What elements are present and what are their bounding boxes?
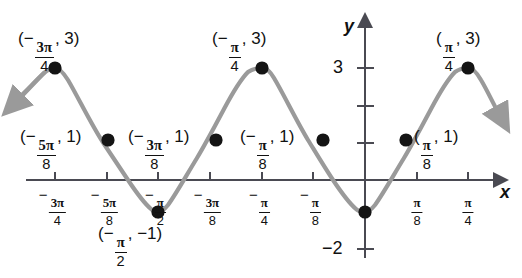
point-min-zero: [358, 205, 371, 218]
ytick-label-minus2: −2: [322, 239, 343, 257]
ytick-label-3: 3: [333, 58, 343, 76]
point-mid-5pi8: [101, 133, 114, 146]
x-axis-label: x: [500, 183, 510, 201]
label-max-left: (−3π4, 3): [18, 30, 79, 74]
xtick-label-3: −3π8: [194, 186, 222, 227]
curve-left-arrow: [19, 73, 44, 99]
y-axis-label: y: [344, 17, 354, 35]
xtick-label-0: −3π4: [39, 186, 67, 227]
xtick-label-7: π4: [461, 186, 474, 227]
xtick-label-1: −5π8: [91, 186, 119, 227]
point-mid-pi8neg: [316, 133, 329, 146]
label-mid-5pi8: (−5π8, 1): [20, 128, 81, 172]
label-min-pi2: (−π2, −1): [98, 225, 162, 269]
point-mid-3pi8: [209, 133, 222, 146]
xtick-label-2: −π2: [145, 186, 167, 227]
label-mid-3pi8: (−3π8, 1): [128, 128, 189, 172]
point-mid-pi8pos: [399, 133, 412, 146]
xtick-label-6: π8: [410, 186, 423, 227]
xtick-label-5: −π8: [300, 186, 322, 227]
graph-figure: (−3π4, 3) (−π4, 3) (π4, 3) (−5π8, 1) (−3…: [0, 0, 522, 278]
label-max-right: (π4, 3): [436, 30, 480, 74]
label-max-mid: (−π4, 3): [212, 30, 266, 74]
xtick-label-4: −π4: [249, 186, 271, 227]
label-mid-pi8-neg: (−π8, 1): [240, 128, 294, 172]
label-mid-pi8-pos: (π8, 1): [414, 128, 458, 172]
